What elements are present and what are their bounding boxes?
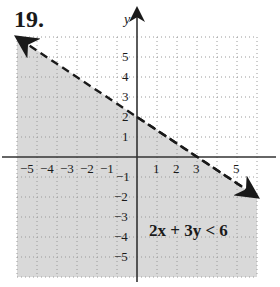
inequality-graph: y 5 4 3 2 1 −1 −2 −3 −4 −5 −5 −4 −3 −2 −… [0,0,280,287]
svg-text:1: 1 [122,129,129,144]
svg-text:4: 4 [122,69,129,84]
svg-text:−5: −5 [114,249,128,264]
svg-text:5: 5 [122,49,129,64]
svg-text:1: 1 [153,161,160,176]
svg-text:−2: −2 [114,189,128,204]
svg-text:−5: −5 [20,161,34,176]
inequality-label: 2x + 3y < 6 [149,221,228,240]
svg-text:−3: −3 [114,209,128,224]
y-axis-label: y [122,12,131,27]
svg-text:−1: −1 [116,169,130,184]
svg-text:−2: −2 [80,161,94,176]
svg-text:−4: −4 [114,229,128,244]
svg-text:3: 3 [193,161,200,176]
svg-text:−1: −1 [100,161,114,176]
svg-text:2: 2 [173,161,180,176]
svg-text:−3: −3 [60,161,74,176]
svg-text:2: 2 [122,109,129,124]
svg-text:−4: −4 [40,161,54,176]
svg-text:5: 5 [233,161,240,176]
svg-text:3: 3 [122,89,129,104]
